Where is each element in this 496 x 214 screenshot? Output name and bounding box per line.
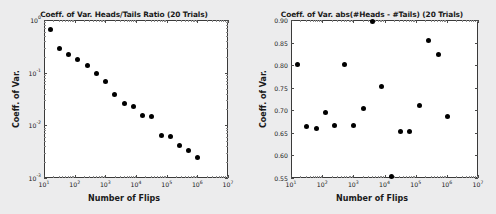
x-tick-minor	[59, 176, 60, 178]
x-tick-minor	[440, 176, 441, 178]
x-tick-minor-top	[89, 20, 90, 22]
y-tick-label: 0.90	[271, 17, 288, 24]
x-tick-label: 102	[317, 181, 328, 188]
x-tick-minor	[115, 176, 116, 178]
y-tick-major-right	[225, 73, 228, 74]
x-tick-minor	[154, 176, 155, 178]
y-tick-minor	[44, 32, 46, 33]
x-tick-minor-top	[219, 20, 220, 22]
x-tick-minor-top	[68, 20, 69, 22]
data-point	[389, 174, 394, 179]
x-tick-major	[385, 175, 386, 178]
y-tick-minor-right	[226, 94, 228, 95]
x-tick-label: 103	[348, 181, 359, 188]
y-tick-minor-right	[226, 57, 228, 58]
x-tick-major-top	[75, 20, 76, 23]
y-tick-label: 0.60	[271, 152, 288, 159]
chart-panel-right: Coeff. of Var. abs(#Heads - #Tails) (20 …	[248, 0, 496, 214]
x-tick-minor	[462, 176, 463, 178]
y-tick-label: 0.70	[271, 107, 288, 114]
data-point	[57, 46, 62, 51]
x-tick-minor-top	[127, 20, 128, 22]
y-tick-minor-right	[226, 28, 228, 29]
x-tick-label: 102	[69, 181, 80, 188]
x-tick-major	[167, 175, 168, 178]
y-tick-minor-right	[226, 146, 228, 147]
x-tick-minor	[96, 176, 97, 178]
x-tick-minor	[212, 176, 213, 178]
x-tick-minor-top	[406, 20, 407, 22]
x-tick-minor-top	[99, 20, 100, 22]
x-tick-minor	[93, 176, 94, 178]
y-tick-major-right	[225, 178, 228, 179]
x-tick-minor	[437, 176, 438, 178]
x-tick-minor	[127, 176, 128, 178]
x-tick-minor	[68, 176, 69, 178]
y-tick-major	[44, 20, 47, 21]
y-tick-major	[44, 73, 47, 74]
y-tick-minor	[44, 130, 46, 131]
x-tick-minor	[300, 176, 301, 178]
x-tick-minor-top	[337, 20, 338, 22]
y-tick-major-right	[225, 20, 228, 21]
x-tick-major	[478, 175, 479, 178]
x-tick-minor	[466, 176, 467, 178]
x-tick-minor	[346, 176, 347, 178]
x-tick-minor-top	[160, 20, 161, 22]
x-tick-minor	[399, 176, 400, 178]
chart-panel-left: Coeff. of Var. Heads/Tails Ratio (20 Tri…	[0, 0, 248, 214]
x-tick-minor	[145, 176, 146, 178]
x-tick-label: 105	[161, 181, 172, 188]
y-tick-minor-right	[226, 48, 228, 49]
x-axis-label-right: Number of Flips	[248, 194, 496, 203]
y-tick-minor	[44, 128, 46, 129]
x-tick-minor-top	[456, 20, 457, 22]
x-tick-minor-top	[471, 20, 472, 22]
y-tick-minor-right	[226, 89, 228, 90]
data-point	[186, 148, 191, 153]
x-tick-minor	[471, 176, 472, 178]
x-axis-label-left: Number of Flips	[0, 194, 248, 203]
x-tick-label: 106	[192, 181, 203, 188]
x-tick-minor	[221, 176, 222, 178]
y-axis-label-left: Coeff. of Var.	[12, 70, 21, 128]
x-tick-minor-top	[310, 20, 311, 22]
x-tick-minor	[456, 176, 457, 178]
y-tick-label: 0.65	[271, 129, 288, 136]
x-tick-minor-top	[96, 20, 97, 22]
x-tick-major	[75, 175, 76, 178]
x-tick-minor	[219, 176, 220, 178]
data-point	[398, 129, 403, 134]
y-tick-label: 0.55	[271, 175, 288, 182]
y-tick-minor-right	[226, 32, 228, 33]
data-point	[436, 52, 441, 57]
x-tick-major-top	[478, 20, 479, 23]
y-tick-major-right	[475, 65, 478, 66]
x-tick-minor	[188, 176, 189, 178]
data-point	[103, 79, 108, 84]
x-tick-minor	[344, 176, 345, 178]
x-tick-minor-top	[176, 20, 177, 22]
y-tick-minor-right	[226, 22, 228, 23]
x-tick-minor	[53, 176, 54, 178]
x-tick-minor	[425, 176, 426, 178]
x-tick-minor	[181, 176, 182, 178]
x-tick-major	[447, 175, 448, 178]
y-tick-major	[291, 133, 294, 134]
x-tick-minor-top	[394, 20, 395, 22]
data-point	[314, 126, 319, 131]
x-tick-minor	[84, 176, 85, 178]
y-tick-minor-right	[226, 133, 228, 134]
y-tick-minor	[44, 89, 46, 90]
y-tick-label: 10-2	[26, 122, 41, 129]
x-tick-minor	[394, 176, 395, 178]
x-tick-label: 104	[131, 181, 142, 188]
x-tick-minor-top	[157, 20, 158, 22]
data-point	[370, 19, 375, 24]
x-tick-minor-top	[191, 20, 192, 22]
y-tick-minor	[44, 41, 46, 42]
data-point	[159, 133, 164, 138]
x-tick-minor	[124, 176, 125, 178]
y-tick-major	[291, 43, 294, 44]
y-tick-minor	[44, 100, 46, 101]
